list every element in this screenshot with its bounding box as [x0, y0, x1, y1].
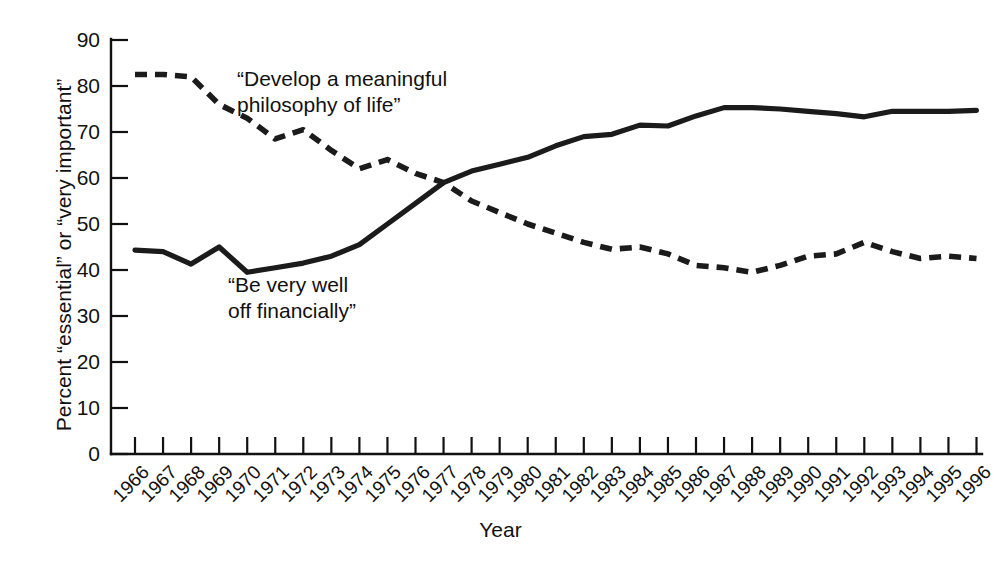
- annotation-line-1: “Develop a meaningful: [237, 67, 447, 90]
- annotation-line-1: “Be very well: [228, 273, 348, 296]
- series-annotation-financial: “Be very well off financially”: [228, 272, 356, 324]
- annotation-line-2: philosophy of life”: [237, 93, 400, 116]
- series-annotation-philosophy: “Develop a meaningful philosophy of life…: [237, 66, 447, 118]
- chart-figure: 0102030405060708090 19661967196819691970…: [0, 0, 1001, 572]
- x-axis-title: Year: [0, 518, 1001, 542]
- y-axis-title: Percent “essential” or “very important”: [52, 45, 76, 465]
- y-tick-marks: [111, 40, 128, 454]
- series-line-financial: [135, 108, 977, 273]
- x-tick-marks: [135, 437, 977, 454]
- annotation-line-2: off financially”: [228, 299, 356, 322]
